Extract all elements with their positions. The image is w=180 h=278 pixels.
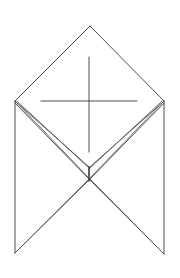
crossing-diagonals <box>15 103 164 254</box>
inner-v-fold <box>15 101 164 181</box>
top-diamond-flap <box>15 26 164 101</box>
folded-envelope-diagram <box>0 0 180 278</box>
